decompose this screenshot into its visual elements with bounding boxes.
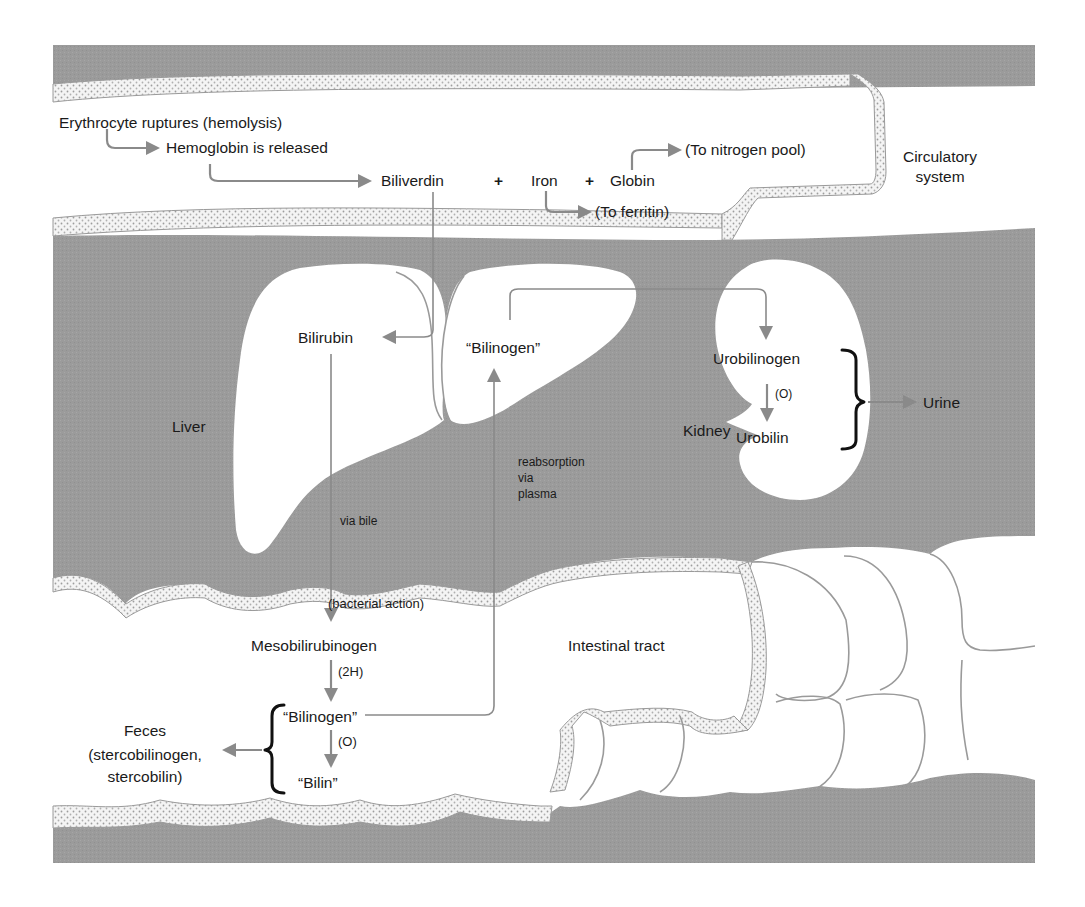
region-intestinal-tract: Intestinal tract — [568, 637, 665, 654]
edge-label-via-bile: via bile — [340, 514, 378, 528]
node-feces-detail-1: (stercobilinogen, — [88, 746, 202, 763]
node-urobilin: Urobilin — [736, 429, 789, 446]
edge-label-reabsorption-2: via — [518, 471, 534, 485]
node-bilinogen-intestine: “Bilinogen” — [283, 708, 357, 725]
node-globin: Globin — [610, 172, 655, 189]
edge-label-oxidation-intestine: (O) — [338, 734, 357, 749]
node-to-nitrogen-pool: (To nitrogen pool) — [685, 141, 806, 158]
node-urine: Urine — [923, 394, 960, 411]
region-circulatory-line1: Circulatory — [903, 148, 977, 165]
node-urobilinogen: Urobilinogen — [713, 350, 800, 367]
node-mesobilirubinogen: Mesobilirubinogen — [251, 637, 377, 654]
region-circulatory-line2: system — [915, 168, 964, 185]
edge-label-oxidation-kidney: (O) — [775, 387, 792, 401]
node-bilirubin: Bilirubin — [298, 329, 353, 346]
node-erythrocyte: Erythrocyte ruptures (hemolysis) — [59, 114, 282, 131]
node-feces: Feces — [124, 722, 166, 739]
region-kidney: Kidney — [683, 422, 731, 439]
node-bilinogen-liver: “Bilinogen” — [466, 339, 540, 356]
edge-label-reabsorption-3: plasma — [518, 487, 557, 501]
diagram-canvas: Erythrocyte ruptures (hemolysis) Hemoglo… — [0, 0, 1085, 907]
node-iron: Iron — [531, 172, 558, 189]
edge-label-bacterial-action: (bacterial action) — [328, 596, 424, 611]
edge-label-2h: (2H) — [338, 664, 363, 679]
plus-sign-1: + — [494, 172, 503, 189]
plus-sign-2: + — [585, 172, 594, 189]
node-to-ferritin: (To ferritin) — [595, 203, 669, 220]
node-bilin: “Bilin” — [298, 774, 338, 791]
region-liver: Liver — [172, 418, 206, 435]
edge-label-reabsorption-1: reabsorption — [518, 455, 585, 469]
node-feces-detail-2: stercobilin) — [108, 768, 183, 785]
node-hemoglobin: Hemoglobin is released — [166, 139, 328, 156]
node-biliverdin: Biliverdin — [381, 172, 444, 189]
